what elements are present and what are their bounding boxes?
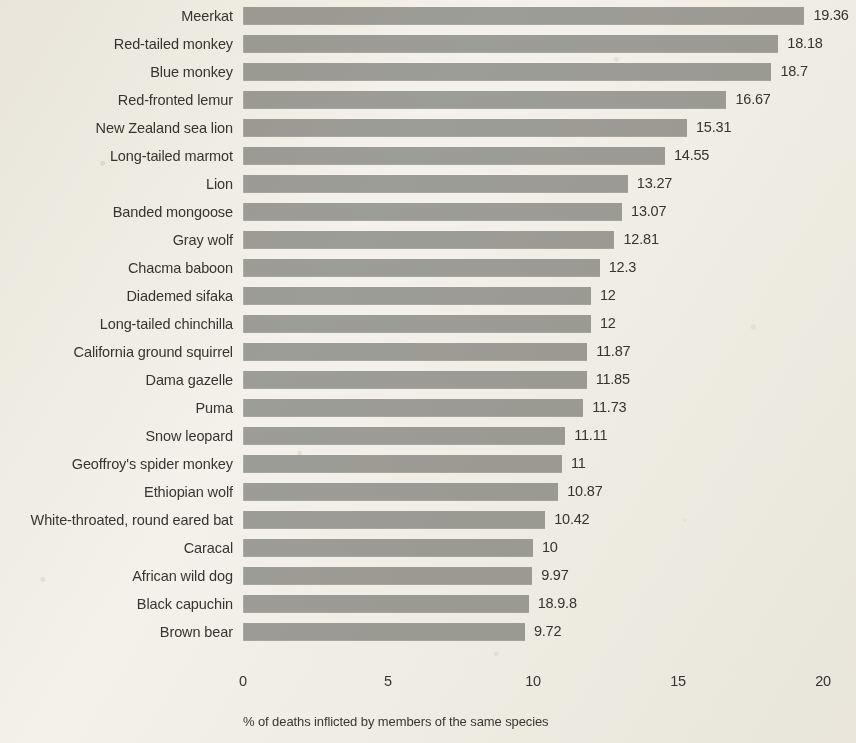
bar-row: California ground squirrel11.87 [0,343,856,371]
chart-rows: Meerkat19.36Red-tailed monkey18.18Blue m… [0,7,856,651]
bar [243,595,529,613]
bar-value-label: 9.97 [541,566,568,584]
bar-value-label: 16.67 [735,90,770,108]
category-label: Diademed sifaka [127,287,234,305]
category-label: Gray wolf [173,231,233,249]
category-label: Meerkat [181,7,233,25]
bar-value-label: 12.81 [623,230,658,248]
x-axis-tick: 20 [815,672,831,690]
category-label: Puma [196,399,233,417]
category-label: African wild dog [132,567,233,585]
bar-row: New Zealand sea lion15.31 [0,119,856,147]
category-label: New Zealand sea lion [96,119,233,137]
bar-value-label: 10.87 [567,482,602,500]
bar [243,35,778,53]
category-label: Black capuchin [137,595,233,613]
bar-value-label: 12 [600,314,616,332]
x-axis-tick: 15 [670,672,686,690]
bar [243,483,558,501]
bar-row: Caracal10 [0,539,856,567]
x-axis-tick: 10 [525,672,541,690]
bar [243,511,545,529]
x-axis-caption: % of deaths inflicted by members of the … [243,714,549,730]
category-label: Dama gazelle [146,371,233,389]
category-label: Red-tailed monkey [114,35,233,53]
bar-row: Geoffroy's spider monkey11 [0,455,856,483]
bar-row: Dama gazelle11.85 [0,371,856,399]
category-label: Long-tailed chinchilla [100,315,233,333]
bar [243,539,533,557]
bar-row: Brown bear9.72 [0,623,856,651]
bar-value-label: 15.31 [696,118,731,136]
bar-value-label: 11.11 [574,426,607,444]
bar-value-label: 18.7 [780,62,807,80]
bar-value-label: 18.18 [787,34,822,52]
category-label: Long-tailed marmot [110,147,233,165]
bar-value-label: 12.3 [609,258,636,276]
bar-value-label: 18.9.8 [538,594,577,612]
bar [243,147,665,165]
bar-row: Black capuchin18.9.8 [0,595,856,623]
bar-value-label: 11.87 [596,342,630,360]
bar-value-label: 9.72 [534,622,561,640]
bar [243,259,600,277]
bar-value-label: 10.42 [554,510,589,528]
bar-value-label: 11.73 [592,398,626,416]
category-label: Blue monkey [150,63,233,81]
category-label: Banded mongoose [113,203,233,221]
bar-row: Chacma baboon12.3 [0,259,856,287]
bar [243,287,591,305]
bar [243,203,622,221]
bar [243,399,583,417]
bar-row: Blue monkey18.7 [0,63,856,91]
bar-row: Red-fronted lemur16.67 [0,91,856,119]
bar-row: Meerkat19.36 [0,7,856,35]
bar [243,119,687,137]
category-label: Caracal [184,539,233,557]
bar-row: Banded mongoose13.07 [0,203,856,231]
bar [243,623,525,641]
bar [243,371,587,389]
bar-value-label: 11 [571,454,586,472]
bar [243,567,532,585]
bar-row: African wild dog9.97 [0,567,856,595]
bar-row: Lion13.27 [0,175,856,203]
category-label: Brown bear [160,623,233,641]
bar-row: Red-tailed monkey18.18 [0,35,856,63]
bar-row: Long-tailed chinchilla12 [0,315,856,343]
bar-row: Puma11.73 [0,399,856,427]
bar-row: Diademed sifaka12 [0,287,856,315]
category-label: California ground squirrel [74,343,233,361]
bar-value-label: 19.36 [813,6,848,24]
bar-value-label: 13.07 [631,202,666,220]
bar-value-label: 10 [542,538,558,556]
category-label: Red-fronted lemur [118,91,233,109]
category-label: Chacma baboon [128,259,233,277]
x-axis-tick: 5 [384,672,392,690]
bar-value-label: 14.55 [674,146,709,164]
x-axis-tick: 0 [239,672,247,690]
bar-chart: Meerkat19.36Red-tailed monkey18.18Blue m… [0,0,856,743]
category-label: Ethiopian wolf [144,483,233,501]
bar [243,427,565,445]
x-axis: 05101520 [0,672,856,694]
category-label: Lion [206,175,233,193]
bar [243,91,726,109]
bar [243,315,591,333]
bar-row: Snow leopard11.11 [0,427,856,455]
bar-value-label: 11.85 [596,370,630,388]
bar [243,175,628,193]
bar [243,231,614,249]
category-label: Geoffroy's spider monkey [72,455,233,473]
bar-row: Long-tailed marmot14.55 [0,147,856,175]
category-label: White-throated, round eared bat [31,511,233,529]
bar [243,343,587,361]
bar [243,63,771,81]
bar [243,7,804,25]
bar [243,455,562,473]
bar-row: White-throated, round eared bat10.42 [0,511,856,539]
bar-row: Ethiopian wolf10.87 [0,483,856,511]
bar-value-label: 12 [600,286,616,304]
bar-row: Gray wolf12.81 [0,231,856,259]
category-label: Snow leopard [146,427,233,445]
